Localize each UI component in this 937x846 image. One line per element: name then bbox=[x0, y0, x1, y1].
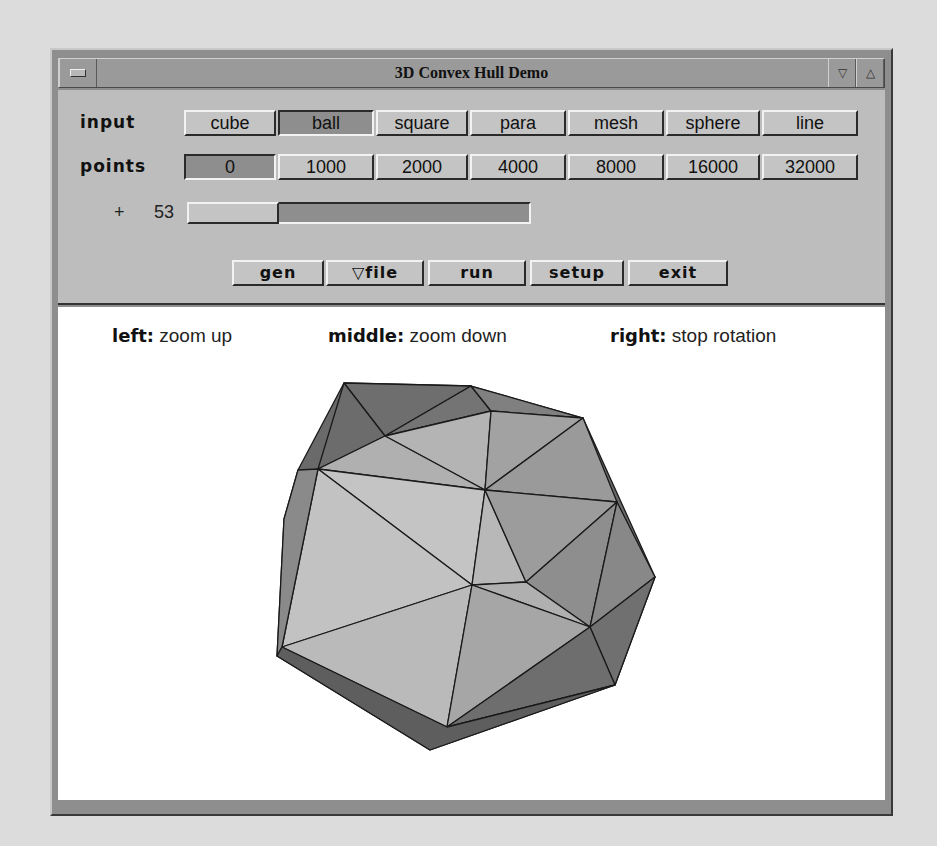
input-sphere-button[interactable]: sphere bbox=[666, 110, 760, 136]
minimize-button[interactable]: ▽ bbox=[828, 59, 856, 87]
slider-plus-label: + bbox=[114, 202, 125, 223]
app-window: 3D Convex Hull Demo ▽ △ input cube ball … bbox=[50, 48, 893, 816]
points-label: points bbox=[80, 156, 146, 176]
points-4000-button[interactable]: 4000 bbox=[470, 154, 566, 180]
window-title: 3D Convex Hull Demo bbox=[59, 64, 884, 82]
gen-button[interactable]: gen bbox=[232, 260, 324, 286]
input-cube-button[interactable]: cube bbox=[184, 110, 276, 136]
points-16000-button[interactable]: 16000 bbox=[666, 154, 760, 180]
points-2000-button[interactable]: 2000 bbox=[376, 154, 468, 180]
setup-button[interactable]: setup bbox=[530, 260, 624, 286]
run-button[interactable]: run bbox=[428, 260, 526, 286]
input-square-button[interactable]: square bbox=[376, 110, 468, 136]
points-32000-button[interactable]: 32000 bbox=[762, 154, 858, 180]
points-0-button[interactable]: 0 bbox=[184, 154, 276, 180]
file-menu-button[interactable]: ▽file bbox=[326, 260, 424, 286]
points-8000-button[interactable]: 8000 bbox=[568, 154, 664, 180]
maximize-icon: △ bbox=[866, 66, 875, 80]
control-panel: input cube ball square para mesh sphere … bbox=[58, 90, 885, 305]
input-line-button[interactable]: line bbox=[762, 110, 858, 136]
input-mesh-button[interactable]: mesh bbox=[568, 110, 664, 136]
title-bar[interactable]: 3D Convex Hull Demo ▽ △ bbox=[58, 58, 885, 88]
input-label: input bbox=[80, 112, 135, 132]
convex-hull-polyhedron[interactable] bbox=[58, 307, 887, 802]
slider-value: 53 bbox=[154, 202, 174, 223]
slider-thumb[interactable] bbox=[187, 202, 279, 224]
exit-button[interactable]: exit bbox=[628, 260, 728, 286]
points-1000-button[interactable]: 1000 bbox=[278, 154, 374, 180]
hull-canvas[interactable]: left: zoom up middle: zoom down right: s… bbox=[58, 307, 885, 800]
minimize-icon: ▽ bbox=[838, 66, 847, 80]
input-para-button[interactable]: para bbox=[470, 110, 566, 136]
maximize-button[interactable]: △ bbox=[856, 59, 884, 87]
input-ball-button[interactable]: ball bbox=[278, 110, 374, 136]
